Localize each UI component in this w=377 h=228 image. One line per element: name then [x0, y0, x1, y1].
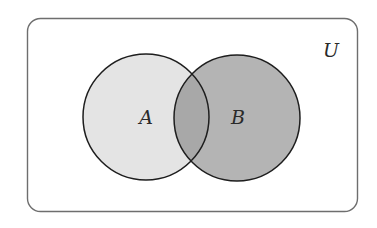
venn-diagram: A B U: [0, 0, 377, 228]
set-b-label: B: [230, 106, 245, 128]
set-a-label: A: [137, 106, 153, 128]
universe-label: U: [323, 39, 340, 61]
